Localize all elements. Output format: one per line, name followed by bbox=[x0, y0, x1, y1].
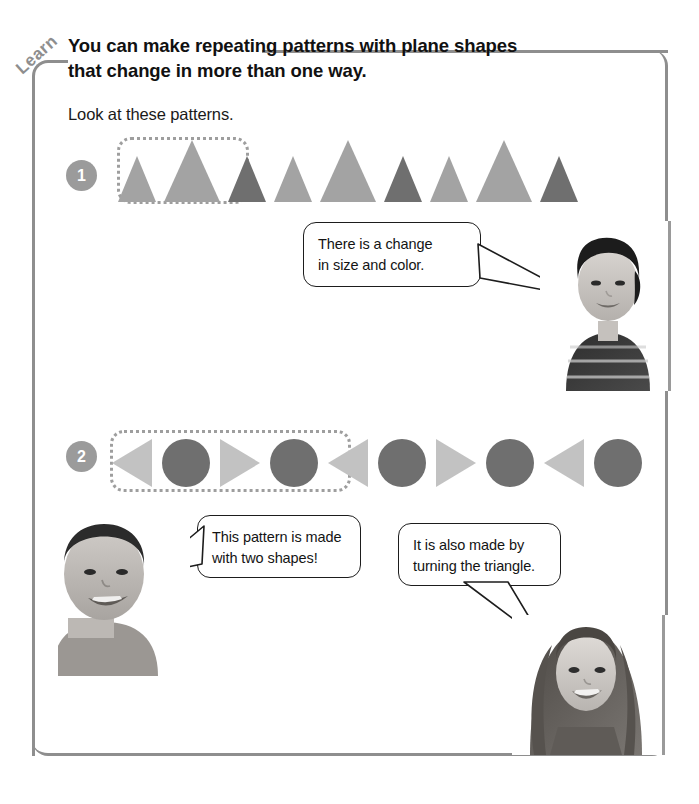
pattern-number-badge-1: 1 bbox=[66, 160, 97, 191]
pattern-row-1 bbox=[118, 140, 586, 202]
photo-boy-short-hair bbox=[58, 506, 190, 676]
pattern-row-2 bbox=[112, 432, 652, 490]
pattern-2-shape-triangle-left-9 bbox=[544, 439, 584, 487]
pattern-1-shape-triangle-up-9 bbox=[540, 156, 578, 202]
photo-girl-long-hair bbox=[512, 615, 670, 755]
speech-bubble-turning-triangle: It is also made by turning the triangle. bbox=[398, 523, 561, 586]
pattern-1-shape-triangle-up-2 bbox=[164, 140, 220, 202]
pattern-2-shape-circle-10 bbox=[594, 439, 642, 487]
instruction-text: Look at these patterns. bbox=[68, 105, 234, 124]
speech-bubble-line: This pattern is made bbox=[212, 527, 346, 548]
pattern-1-shape-triangle-up-4 bbox=[274, 156, 312, 202]
page-frame-left-edge bbox=[32, 96, 35, 756]
speech-bubble-line: There is a change bbox=[318, 234, 466, 255]
pattern-2-shape-triangle-left-5 bbox=[328, 439, 368, 487]
pattern-2-shape-circle-8 bbox=[486, 439, 534, 487]
textbook-page: Learn You can make repeating patterns wi… bbox=[0, 0, 699, 804]
speech-bubble-line: turning the triangle. bbox=[413, 556, 546, 577]
speech-bubble-size-color: There is a change in size and color. bbox=[303, 222, 481, 287]
pattern-2-shape-triangle-left-1 bbox=[112, 439, 152, 487]
pattern-1-shape-triangle-up-7 bbox=[430, 156, 468, 202]
page-title: You can make repeating patterns with pla… bbox=[68, 33, 538, 83]
speech-bubble-line: with two shapes! bbox=[212, 548, 346, 569]
speech-bubble-line: It is also made by bbox=[413, 535, 546, 556]
pattern-2-shape-circle-4 bbox=[270, 439, 318, 487]
pattern-2-shape-triangle-right-3 bbox=[220, 439, 260, 487]
pattern-1-shape-triangle-up-1 bbox=[118, 156, 156, 202]
pattern-1-shape-triangle-up-5 bbox=[320, 140, 376, 202]
pattern-1-shape-triangle-up-3 bbox=[228, 156, 266, 202]
speech-bubble-two-shapes: This pattern is made with two shapes! bbox=[197, 515, 361, 578]
pattern-1-shape-triangle-up-6 bbox=[384, 156, 422, 202]
photo-boy-striped-shirt bbox=[540, 221, 676, 391]
speech-bubble-line: in size and color. bbox=[318, 255, 466, 276]
pattern-1-shape-triangle-up-8 bbox=[476, 140, 532, 202]
pattern-2-shape-triangle-right-7 bbox=[436, 439, 476, 487]
pattern-2-shape-circle-6 bbox=[378, 439, 426, 487]
pattern-2-shape-circle-2 bbox=[162, 439, 210, 487]
pattern-number-badge-2: 2 bbox=[66, 441, 97, 472]
